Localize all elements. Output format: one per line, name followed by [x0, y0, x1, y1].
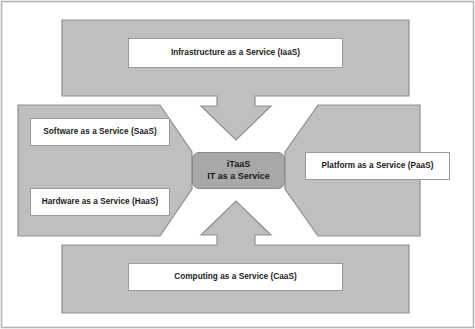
center-node-itaas[interactable]: iTaaS IT as a Service	[192, 152, 285, 189]
label-text-saas: Software as a Service (SaaS)	[43, 127, 156, 137]
label-box-haas[interactable]: Hardware as a Service (HaaS)	[30, 188, 170, 216]
label-box-iaas[interactable]: Infrastructure as a Service (IaaS)	[128, 38, 343, 68]
label-box-paas[interactable]: Platform as a Service (PaaS)	[305, 152, 450, 180]
center-node-line-1: iTaaS	[227, 159, 250, 171]
label-text-caas: Computing as a Service (CaaS)	[174, 272, 296, 282]
label-text-haas: Hardware as a Service (HaaS)	[42, 197, 159, 207]
label-box-saas[interactable]: Software as a Service (SaaS)	[30, 118, 170, 146]
label-box-caas[interactable]: Computing as a Service (CaaS)	[128, 263, 343, 291]
center-node-line-2: IT as a Service	[207, 171, 270, 183]
label-text-iaas: Infrastructure as a Service (IaaS)	[171, 48, 300, 58]
diagram-canvas: iTaaS IT as a Service Infrastructure as …	[0, 0, 475, 329]
label-text-paas: Platform as a Service (PaaS)	[322, 161, 434, 171]
